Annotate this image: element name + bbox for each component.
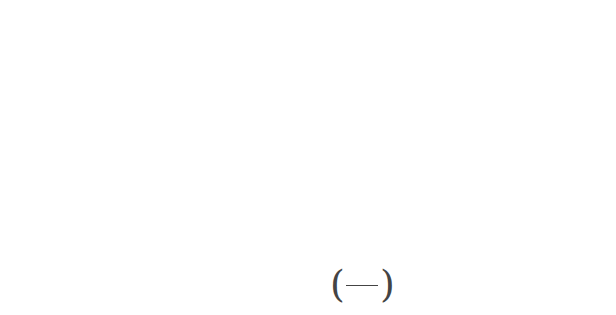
chart-area — [0, 0, 616, 250]
formula: ( ) — [332, 264, 390, 308]
right-paren: ) — [380, 264, 395, 304]
fraction-bar — [346, 285, 378, 286]
figure-caption: ( ) — [120, 258, 520, 308]
left-paren: ( — [330, 264, 345, 304]
